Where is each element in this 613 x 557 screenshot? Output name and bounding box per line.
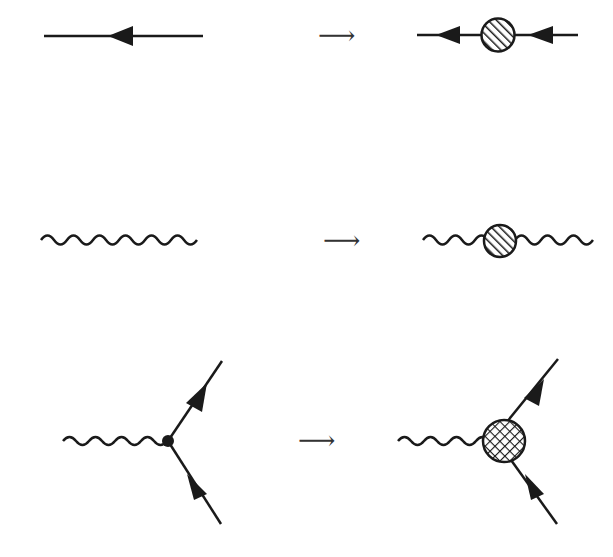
implies-arrow-row-1: ⟶	[318, 22, 355, 48]
bare-fermion-propagator	[44, 26, 203, 46]
full-vertex	[398, 359, 558, 524]
implies-arrow-row-2: ⟶	[323, 227, 360, 253]
hatched-blob	[484, 225, 516, 257]
arrow-up-right-icon	[524, 379, 544, 406]
arrow-left-icon	[108, 26, 133, 46]
crosshatched-blob	[483, 420, 525, 462]
bare-photon-propagator	[41, 236, 197, 245]
arrow-up-left-icon	[525, 474, 544, 500]
arrow-left-icon	[528, 26, 553, 44]
hatched-blob	[482, 19, 515, 52]
bare-vertex	[63, 361, 222, 524]
wavy-photon-line	[41, 236, 197, 245]
feynman-diagram-canvas: ⟶ ⟶ ⟶	[0, 0, 613, 557]
arrow-left-icon	[436, 26, 460, 44]
vertex-dot	[162, 435, 174, 447]
dressed-photon-propagator	[423, 225, 593, 257]
feynman-diagrams	[0, 0, 613, 557]
implies-arrow-row-3: ⟶	[298, 427, 335, 453]
dressed-fermion-propagator	[417, 19, 578, 52]
